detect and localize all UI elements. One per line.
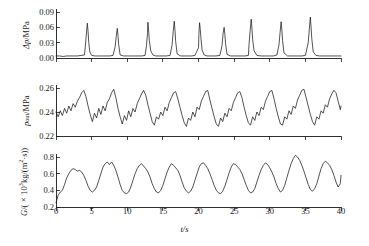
x-tick-label: 30 [266, 207, 275, 216]
x-tick-label: 20 [194, 207, 203, 216]
panel-top-plot [0, 0, 369, 80]
panel-pressure-drop: Δp/MPa 0.09 0.06 0.03 0.00 [0, 0, 369, 80]
panel-middle-plot [0, 78, 369, 148]
x-axis-label: t/s [0, 224, 369, 234]
x-tick-label: 0 [54, 207, 58, 216]
x-tick-label: 35 [301, 207, 310, 216]
x-axis-tick-labels: 0510152025303540 [0, 207, 369, 219]
x-tick-label: 10 [123, 207, 132, 216]
x-tick-label: 25 [230, 207, 239, 216]
figure-container: Δp/MPa 0.09 0.06 0.03 0.00 pout/MPa 0.26… [0, 0, 369, 246]
x-tick-label: 40 [337, 207, 346, 216]
x-tick-label: 15 [159, 207, 168, 216]
panel-outlet-pressure: pout/MPa 0.26 0.24 0.22 [0, 78, 369, 148]
x-tick-label: 5 [90, 207, 94, 216]
